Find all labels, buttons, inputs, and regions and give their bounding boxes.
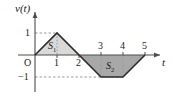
x-tick-label-5: 5 xyxy=(142,41,147,51)
x-axis-title: t xyxy=(162,57,165,68)
x-tick-label-3: 3 xyxy=(98,41,103,51)
x-tick-label-4: 4 xyxy=(120,41,125,51)
x-axis-arrow-icon xyxy=(154,53,160,58)
y-tick-label-neg1: −1 xyxy=(18,72,29,82)
x-tick-label-1: 1 xyxy=(54,58,59,68)
region-label-s2: S2 xyxy=(106,61,114,74)
velocity-time-graph: v(t) t O 1 −1 1 2 3 4 5 S1 S2 xyxy=(0,0,173,96)
x-tick-label-2: 2 xyxy=(76,58,81,68)
y-axis-title: v(t) xyxy=(15,3,30,14)
y-axis-arrow-icon xyxy=(33,12,38,18)
region-label-s1-sub: 1 xyxy=(53,46,56,53)
region-label-s2-sub: 2 xyxy=(111,66,114,73)
origin-label: O xyxy=(24,58,31,68)
y-tick-label-1: 1 xyxy=(25,28,30,38)
region-label-s1: S1 xyxy=(48,41,56,54)
